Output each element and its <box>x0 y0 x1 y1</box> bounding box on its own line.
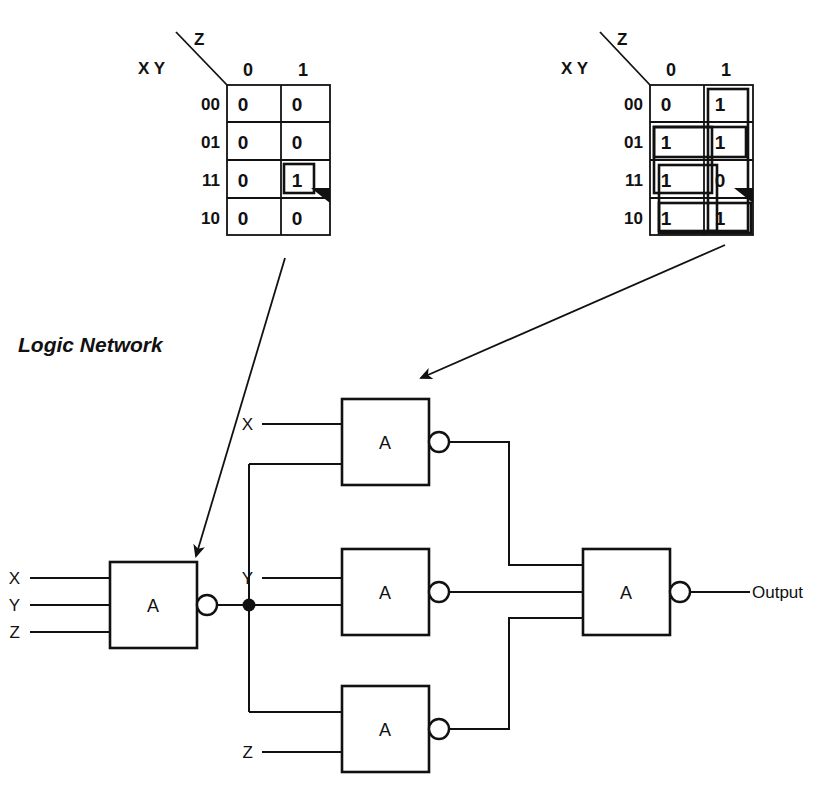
kmap-right-row-label-1: 01 <box>624 133 643 152</box>
kmap-left-cell-1-0: 0 <box>238 132 249 153</box>
label-output: Output <box>752 583 803 602</box>
kmap-left-row-var: X Y <box>138 59 166 78</box>
kmap-right-cell-0-1: 1 <box>715 94 726 115</box>
label-gate2-input-x: X <box>242 415 253 434</box>
kmap-right-cell-2-0: 1 <box>661 170 672 191</box>
gate-nand-3-bubble-icon <box>429 582 449 602</box>
kmap-left-col-header-0: 0 <box>243 60 253 80</box>
kmap-right-cell-3-0: 1 <box>661 208 672 229</box>
gate-nand-4-label: A <box>379 720 391 740</box>
kmap-right-tap-marker <box>734 188 753 203</box>
label-input-x: X <box>9 569 20 588</box>
gate-nand-3-label: A <box>379 583 391 603</box>
gate-nand-out-bubble-icon <box>670 582 690 602</box>
kmap-left-cell-0-1: 0 <box>292 94 303 115</box>
kmap-left-diag-var: Z <box>194 30 204 49</box>
diagram-canvas: Z X Y 0 1 00 01 11 10 0 0 0 0 0 1 0 0 Z … <box>0 0 822 798</box>
kmap-right-group-row-10-wide <box>659 203 751 233</box>
gate-nand-1-bubble-icon <box>197 595 217 615</box>
kmap-left-row-label-0: 00 <box>201 95 220 114</box>
kmap-left-cell-3-1: 0 <box>292 208 303 229</box>
kmap-right-cell-1-1: 1 <box>715 132 726 153</box>
kmap-right-row-label-3: 10 <box>624 209 643 228</box>
kmap-right-diag-var: Z <box>617 30 627 49</box>
gate-nand-1-label: A <box>147 596 159 616</box>
kmap-left-row-label-3: 10 <box>201 209 220 228</box>
label-input-z: Z <box>10 623 20 642</box>
kmap-right-row-var: X Y <box>561 59 589 78</box>
kmap-left: Z X Y 0 1 00 01 11 10 0 0 0 0 0 1 0 0 <box>138 30 330 235</box>
label-gate3-input-y: Y <box>242 569 253 588</box>
kmap-right-col-header-0: 0 <box>666 60 676 80</box>
kmap-left-row-label-1: 01 <box>201 133 220 152</box>
kmap-left-row-label-2: 11 <box>202 171 220 190</box>
logic-diagram-svg: Z X Y 0 1 00 01 11 10 0 0 0 0 0 1 0 0 Z … <box>0 0 822 798</box>
kmap-left-tap-marker <box>311 188 330 203</box>
pointer-arrow-right-kmap-to-gate2 <box>421 245 725 378</box>
label-gate4-input-z: Z <box>243 743 253 762</box>
logic-network-title: Logic Network <box>18 333 164 356</box>
wire-gate4-to-output-gate <box>449 618 583 729</box>
kmap-right-col-header-1: 1 <box>721 60 731 80</box>
logic-network: X Y Z A X A Y A Z A A <box>9 399 804 772</box>
gate-nand-2-bubble-icon <box>429 432 449 452</box>
kmap-left-cell-2-1: 1 <box>292 170 303 191</box>
wire-gate2-to-output-gate <box>449 442 583 565</box>
kmap-left-cell-2-0: 0 <box>238 170 249 191</box>
kmap-right-cell-0-0: 0 <box>661 94 672 115</box>
kmap-right-row-label-0: 00 <box>624 95 643 114</box>
gate-nand-out-label: A <box>620 583 632 603</box>
kmap-left-col-header-1: 1 <box>298 60 308 80</box>
kmap-left-cell-1-1: 0 <box>292 132 303 153</box>
kmap-left-cell-3-0: 0 <box>238 208 249 229</box>
gate-nand-4-bubble-icon <box>429 719 449 739</box>
kmap-right: Z X Y 0 1 00 01 11 10 0 1 1 1 1 0 1 1 <box>561 30 753 235</box>
label-input-y: Y <box>9 596 20 615</box>
kmap-left-cell-0-0: 0 <box>238 94 249 115</box>
gate-nand-2-label: A <box>379 433 391 453</box>
pointer-arrow-left-kmap-to-gate1 <box>196 258 285 556</box>
kmap-right-row-label-2: 11 <box>625 171 643 190</box>
kmap-right-cell-1-0: 1 <box>661 132 672 153</box>
